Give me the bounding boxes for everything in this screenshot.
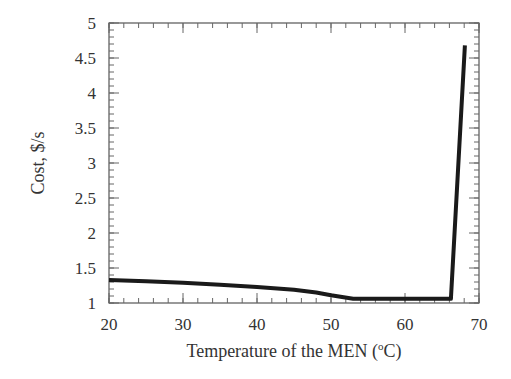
x-tick-label: 60 bbox=[397, 315, 414, 334]
y-tick-label: 2.5 bbox=[75, 189, 96, 208]
y-tick-labels: 11.522.533.544.55 bbox=[75, 14, 97, 313]
y-tick-label: 4 bbox=[88, 84, 97, 103]
x-tick-label: 20 bbox=[101, 315, 118, 334]
y-tick-label: 3 bbox=[88, 154, 97, 173]
x-axis-label: Temperature of the MEN (oC) bbox=[186, 340, 401, 362]
y-tick-label: 2 bbox=[88, 224, 97, 243]
minor-ticks bbox=[109, 23, 479, 303]
y-tick-label: 4.5 bbox=[75, 49, 96, 68]
y-tick-label: 1.5 bbox=[75, 259, 96, 278]
cost-vs-temperature-chart: 203040506070 11.522.533.544.55 Temperatu… bbox=[0, 0, 511, 379]
x-tick-labels: 203040506070 bbox=[101, 315, 488, 334]
x-tick-label: 70 bbox=[471, 315, 488, 334]
y-tick-label: 1 bbox=[88, 294, 97, 313]
x-tick-label: 40 bbox=[249, 315, 266, 334]
plot-frame bbox=[109, 23, 479, 303]
major-ticks bbox=[109, 23, 479, 303]
y-tick-label: 5 bbox=[88, 14, 97, 33]
y-axis-label: Cost, $/s bbox=[28, 131, 48, 194]
x-tick-label: 30 bbox=[175, 315, 192, 334]
y-tick-label: 3.5 bbox=[75, 119, 96, 138]
cost-line bbox=[109, 45, 465, 298]
x-tick-label: 50 bbox=[323, 315, 340, 334]
